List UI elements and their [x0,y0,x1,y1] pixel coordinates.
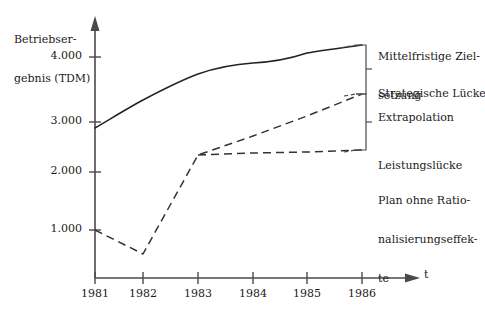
y-tick-label-4000: 4.000 [30,50,82,63]
x-tick-label-1985: 1985 [285,288,329,301]
y-axis-title-line1: Betriebser- [14,34,90,47]
x-tick-label-1981: 1981 [73,288,117,301]
chart-canvas: Betriebser- gebnis (TDM) 4.000 3.000 2.0… [0,0,485,316]
series-mittelfristige-zielsetzung [95,45,362,128]
leistungsluecke-brace [344,94,372,152]
y-axis [91,16,100,278]
annotation-plan-line2: nalisierungseffek- [378,234,484,247]
strategische-luecke-brace [340,45,372,96]
annotation-plan-ohne-rationalisierungseffekte: Plan ohne Ratio- nalisierungseffek- te [378,169,484,312]
annotation-extra-line1: Extrapolation [378,112,484,125]
y-tick-label-1000: 1.000 [30,223,82,236]
series-plan-ohne-rationalisierungseffekte [198,150,362,155]
x-tick-label-1983: 1983 [176,288,220,301]
x-axis [95,274,420,283]
y-tick-label-2000: 2.000 [30,165,82,178]
y-axis-title-line2: gebnis (TDM) [14,73,90,86]
y-tick-label-3000: 3.000 [30,115,82,128]
annotation-plan-line1: Plan ohne Ratio- [378,195,484,208]
x-tick-label-1982: 1982 [121,288,165,301]
y-axis-arrow-icon [91,16,100,31]
series-extrapolation [95,94,362,254]
x-tick-label-1984: 1984 [231,288,275,301]
annotation-plan-line3: te [378,273,484,286]
